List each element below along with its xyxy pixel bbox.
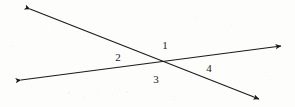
- geometry-figure: 1 2 3 4: [0, 0, 295, 107]
- line-bottom-left-to-right: [21, 46, 281, 80]
- figure-canvas: [0, 0, 295, 107]
- line-top-left-to-bottom-right: [30, 9, 259, 99]
- angle-label-3: 3: [153, 74, 159, 85]
- angle-label-2: 2: [115, 52, 121, 63]
- angle-label-1: 1: [162, 40, 168, 51]
- angle-label-4: 4: [206, 63, 212, 74]
